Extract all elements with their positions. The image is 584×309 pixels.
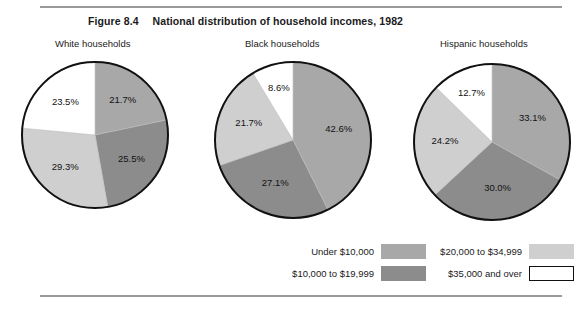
bottom-divider-rule [40, 295, 562, 297]
legend-label: $20,000 to $34,999 [440, 246, 522, 257]
legend-item-35000-and-over: $35,000 and over [426, 266, 574, 281]
legend-swatch [381, 244, 426, 259]
legend-item-10000-19999: $10,000 to $19,999 [262, 266, 426, 281]
pie-chart-1: 21.7%25.5%29.3%23.5% [22, 62, 168, 208]
pie-slice-label: 21.7% [109, 94, 136, 105]
legend-item-under-10000: Under $10,000 [262, 244, 426, 259]
pie-slice-label: 24.2% [432, 135, 459, 146]
legend-label: $10,000 to $19,999 [292, 268, 374, 279]
pie-slice-label: 21.7% [235, 117, 262, 128]
pie-slice-label: 8.6% [268, 82, 290, 93]
pie-slice-label: 30.0% [484, 182, 511, 193]
legend-row: $10,000 to $19,999 $35,000 and over [262, 262, 574, 284]
legend-row: Under $10,000 $20,000 to $34,999 [262, 240, 574, 262]
pie-slice-label: 25.5% [118, 153, 145, 164]
pie-slice-label: 12.7% [458, 87, 485, 98]
pie-slice-label: 23.5% [52, 96, 79, 107]
legend: Under $10,000 $20,000 to $34,999 $10,000… [262, 240, 574, 284]
legend-swatch [529, 266, 574, 281]
pie-slice-label: 27.1% [262, 177, 289, 188]
pie-slice-label: 29.3% [52, 161, 79, 172]
pie-chart-3: 33.1%30.0%24.2%12.7% [414, 64, 570, 220]
legend-swatch [381, 266, 426, 281]
figure-page: Figure 8.4National distribution of house… [0, 0, 584, 309]
pie-chart-2: 42.6%27.1%21.7%8.6% [215, 62, 371, 218]
legend-label: $35,000 and over [448, 268, 522, 279]
legend-label: Under $10,000 [311, 246, 374, 257]
pie-slice-label: 33.1% [519, 112, 546, 123]
legend-swatch [529, 244, 574, 259]
pie-slice-label: 42.6% [325, 123, 352, 134]
legend-item-20000-34999: $20,000 to $34,999 [426, 244, 574, 259]
